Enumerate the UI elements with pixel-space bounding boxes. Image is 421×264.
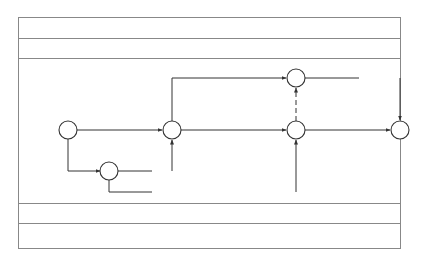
time-scaled-network-diagram xyxy=(0,0,421,264)
node-4 xyxy=(287,121,305,139)
node-2 xyxy=(100,162,118,180)
node-6 xyxy=(391,121,409,139)
activity-2-4-solid xyxy=(109,180,152,192)
node-1 xyxy=(59,121,77,139)
node-5 xyxy=(287,69,305,87)
activity-arrows xyxy=(68,78,400,192)
event-nodes xyxy=(59,69,409,180)
activity-1-2 xyxy=(68,139,100,171)
node-3 xyxy=(163,121,181,139)
diagram-canvas xyxy=(0,0,421,264)
activity-3-5 xyxy=(172,78,286,121)
